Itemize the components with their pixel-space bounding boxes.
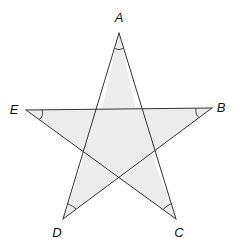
vertex-label-b: B bbox=[217, 100, 226, 115]
pentagram-diagram: A B C D E bbox=[0, 0, 237, 248]
vertex-label-c: C bbox=[174, 225, 184, 240]
vertex-label-e: E bbox=[10, 102, 19, 117]
star-fill bbox=[26, 33, 212, 219]
vertex-label-a: A bbox=[114, 10, 124, 25]
vertex-label-d: D bbox=[52, 225, 61, 240]
